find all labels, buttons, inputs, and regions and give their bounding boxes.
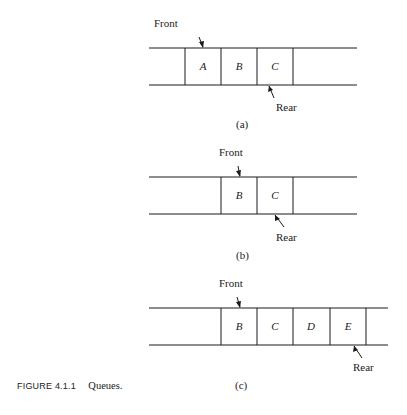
front-label-a: Front: [154, 17, 178, 29]
queue-cell-c-0: B: [221, 320, 257, 332]
front-label-b: Front: [219, 146, 243, 158]
front-label-c: Front: [219, 277, 243, 289]
rear-label-b: Rear: [276, 231, 297, 243]
rear-label-c: Rear: [353, 361, 374, 373]
rear-arrow-icon: [268, 86, 273, 92]
sublabel-b: (b): [236, 249, 249, 261]
figure-caption: FIGURE 4.1.1 Queues.: [17, 380, 122, 391]
queue-cell-a-1: B: [221, 60, 257, 72]
queue-cell-c-3: E: [330, 320, 366, 332]
figure-number: FIGURE 4.1.1: [17, 381, 76, 391]
front-arrow-icon: [236, 301, 241, 308]
queue-cell-c-2: D: [293, 320, 329, 332]
sublabel-c: (c): [235, 379, 247, 391]
front-arrow-icon: [199, 41, 204, 48]
queue-cell-b-1: C: [257, 189, 293, 201]
queue-cell-a-0: A: [185, 60, 221, 72]
figure-title: Queues.: [88, 380, 122, 391]
rear-label-a: Rear: [276, 101, 297, 113]
sublabel-a: (a): [236, 118, 248, 130]
queue-cell-b-0: B: [221, 189, 257, 201]
queue-cell-a-2: C: [257, 60, 293, 72]
queue-cell-c-1: C: [257, 320, 293, 332]
